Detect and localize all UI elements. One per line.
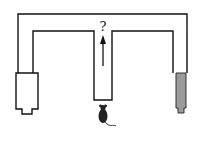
right-goal-box [176,73,186,113]
direction-arrow-head [100,35,106,44]
mouse-icon [99,105,117,126]
choice-question-mark: ? [100,19,107,34]
left-goal-box [16,73,38,114]
t-maze-diagram: ? [0,0,198,150]
